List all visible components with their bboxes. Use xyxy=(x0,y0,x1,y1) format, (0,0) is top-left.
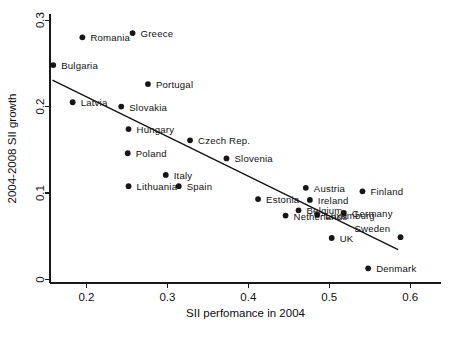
data-point xyxy=(130,30,136,36)
point-label: Netherlands xyxy=(294,212,348,222)
data-point xyxy=(283,213,289,219)
data-point xyxy=(360,188,366,194)
point-label: Estonia xyxy=(266,195,299,205)
data-point xyxy=(307,197,313,203)
point-label: Lithuania xyxy=(137,182,178,192)
data-point xyxy=(50,62,56,68)
data-point xyxy=(224,156,230,162)
scatter-chart: 0.20.30.40.50.600.10.20.3 SII perfomance… xyxy=(0,0,449,339)
point-label: Poland xyxy=(136,149,167,159)
point-label: Spain xyxy=(187,182,213,192)
y-tick-label: 0.2 xyxy=(34,99,46,115)
data-point xyxy=(255,196,261,202)
x-tick-label: 0.3 xyxy=(159,291,175,303)
y-tick-label: 0.1 xyxy=(34,185,46,201)
point-label: Portugal xyxy=(156,80,193,90)
point-label: Bulgaria xyxy=(61,61,98,71)
point-label: Slovenia xyxy=(234,154,272,164)
y-axis-title: 2004-2008 SII growth xyxy=(6,94,18,204)
data-point xyxy=(329,235,335,241)
x-tick-label: 0.5 xyxy=(321,291,337,303)
data-point xyxy=(163,172,169,178)
y-axis-ticks xyxy=(45,20,50,279)
x-axis-ticks xyxy=(86,283,410,288)
point-label: Latvia xyxy=(81,98,108,108)
data-point xyxy=(70,99,76,105)
x-tick-label: 0.2 xyxy=(78,291,94,303)
point-label: Finland xyxy=(370,187,403,197)
data-point xyxy=(126,183,132,189)
x-tick-label: 0.4 xyxy=(240,291,257,303)
data-point xyxy=(365,265,371,271)
data-point xyxy=(187,137,193,143)
x-tick-label: 0.6 xyxy=(402,291,418,303)
data-point xyxy=(145,81,151,87)
point-label: Austria xyxy=(314,184,345,194)
data-point xyxy=(118,104,124,110)
point-label: Germany xyxy=(352,209,393,219)
data-point xyxy=(303,185,309,191)
point-label: Hungary xyxy=(137,125,175,135)
point-label: Slovakia xyxy=(129,103,167,113)
data-point xyxy=(398,234,404,240)
point-label: Sweden xyxy=(355,224,391,234)
chart-canvas: 0.20.30.40.50.600.10.20.3 SII perfomance… xyxy=(0,0,449,339)
x-axis-title: SII perfomance in 2004 xyxy=(186,307,306,319)
point-label: Czech Rep. xyxy=(198,136,250,146)
data-point xyxy=(125,150,131,156)
point-label: Romania xyxy=(90,33,130,43)
point-label: Denmark xyxy=(376,264,416,274)
data-point xyxy=(79,34,85,40)
y-tick-label: 0 xyxy=(34,276,46,282)
y-tick-label: 0.3 xyxy=(34,12,46,28)
data-point xyxy=(126,126,132,132)
point-label: Italy xyxy=(174,171,193,181)
point-label: UK xyxy=(340,234,354,244)
point-label: Greece xyxy=(141,29,174,39)
axes xyxy=(45,14,441,288)
